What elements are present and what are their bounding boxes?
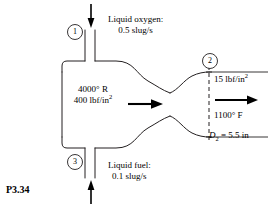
- chamber-pressure-value: 400 lbf/in: [74, 95, 109, 105]
- exit-diameter-value: = 5.5 in: [219, 130, 249, 140]
- figure-caption: P3.34: [6, 184, 30, 195]
- exit-pressure-label: 15 lbf/in2: [214, 74, 248, 85]
- fuel-inlet-title: Liquid fuel:: [108, 160, 151, 171]
- oxygen-inlet-label: Liquid oxygen: 0.5 slug/s: [108, 14, 163, 36]
- chamber-pressure: 400 lbf/in2: [62, 95, 124, 106]
- exit-temperature-label: 1100° F: [214, 110, 243, 121]
- fuel-inlet-arrow: [88, 180, 95, 204]
- chamber-temperature: 4000° R: [62, 84, 124, 95]
- exit-pressure-value: 15 lbf/in: [214, 74, 245, 84]
- oxygen-flow-rate: 0.5 slug/s: [108, 25, 163, 36]
- exit-diameter-label: D2 = 5.5 in: [209, 130, 249, 141]
- oxygen-inlet-title: Liquid oxygen:: [108, 14, 163, 25]
- fuel-inlet-label: Liquid fuel: 0.1 slug/s: [108, 160, 151, 182]
- exit-flow-arrow: [215, 96, 258, 105]
- fuel-flow-rate: 0.1 slug/s: [108, 171, 151, 182]
- chamber-pressure-exponent: 2: [109, 93, 112, 100]
- oxygen-inlet-arrow: [88, 4, 95, 28]
- chamber-conditions-label: 4000° R 400 lbf/in2: [62, 84, 124, 106]
- chamber-flow-arrow: [128, 99, 163, 109]
- station-2-number: 2: [203, 54, 217, 68]
- exit-pressure-exponent: 2: [245, 72, 248, 79]
- station-3-number: 3: [68, 155, 82, 169]
- rocket-nozzle-figure: 1 2 3 Liquid oxygen: 0.5 slug/s 4000° R …: [0, 0, 274, 209]
- station-1-number: 1: [68, 25, 82, 39]
